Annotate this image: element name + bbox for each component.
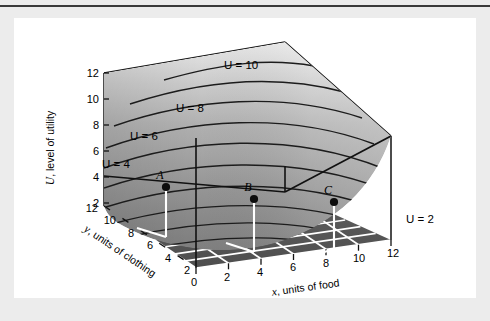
contour-label-u4: U = 4 bbox=[102, 158, 130, 170]
z-tick-10: 10 bbox=[87, 93, 99, 105]
z-tick-6: 6 bbox=[93, 145, 99, 157]
point-label-b: B bbox=[244, 180, 252, 194]
z-tick-4: 4 bbox=[93, 171, 99, 183]
x-tick-4: 4 bbox=[257, 266, 263, 278]
point-label-c: C bbox=[324, 183, 333, 197]
z-axis: 12 10 8 6 4 2 U, level of utility bbox=[44, 67, 109, 209]
z-axis-title-rest: , level of utility bbox=[44, 110, 56, 177]
z-tick-8: 8 bbox=[93, 119, 99, 131]
marker-c bbox=[330, 198, 338, 206]
contour-label-u10: U = 10 bbox=[224, 59, 258, 71]
y-tick-10: 10 bbox=[104, 214, 116, 226]
x-tick-6: 6 bbox=[290, 261, 296, 273]
figure-card: 12 10 8 6 4 2 U, level of utility bbox=[14, 18, 476, 298]
x-tick-0: 0 bbox=[191, 276, 197, 288]
y-tick-12: 12 bbox=[86, 202, 98, 214]
y-tick-6: 6 bbox=[147, 239, 153, 251]
x-tick-8: 8 bbox=[323, 257, 329, 269]
x-tick-2: 2 bbox=[224, 271, 230, 283]
x-axis-title: x, units of food bbox=[270, 276, 340, 298]
contour-label-u6: U = 6 bbox=[130, 130, 158, 142]
z-tick-12: 12 bbox=[87, 67, 99, 79]
x-axis-title-rest: , units of food bbox=[276, 276, 340, 297]
top-divider-rule bbox=[0, 5, 490, 7]
z-axis-title: U, level of utility bbox=[44, 110, 56, 185]
y-tick-4: 4 bbox=[165, 252, 171, 264]
svg-text:x, units of food: x, units of food bbox=[270, 276, 340, 298]
figure-page: 12 10 8 6 4 2 U, level of utility bbox=[0, 0, 490, 321]
y-tick-2: 2 bbox=[184, 264, 190, 276]
marker-b bbox=[250, 195, 258, 203]
svg-text:U, level of utility: U, level of utility bbox=[44, 110, 56, 185]
contour-label-u8: U = 8 bbox=[176, 102, 204, 114]
y-tick-8: 8 bbox=[128, 227, 134, 239]
utility-surface-plot: 12 10 8 6 4 2 U, level of utility bbox=[14, 18, 476, 298]
point-label-a: A bbox=[155, 168, 164, 182]
x-tick-10: 10 bbox=[353, 252, 365, 264]
marker-a bbox=[162, 183, 170, 191]
contour-label-u2: U = 2 bbox=[406, 213, 434, 225]
x-tick-12: 12 bbox=[387, 247, 399, 259]
